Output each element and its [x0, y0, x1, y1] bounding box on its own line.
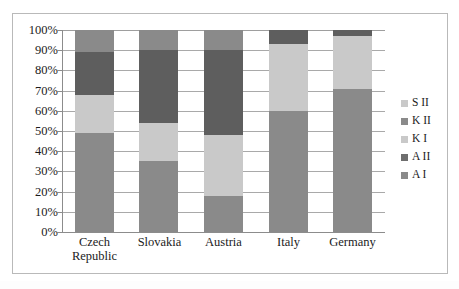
bar-segment — [139, 30, 178, 50]
y-axis-tick — [57, 151, 62, 152]
legend-swatch-icon — [401, 100, 408, 107]
chart-legend: S IIK IIK IA IIA I — [401, 94, 449, 184]
y-axis-tick — [57, 131, 62, 132]
scan-edge — [0, 281, 459, 289]
bar-segment — [139, 123, 178, 161]
y-axis-tick — [57, 50, 62, 51]
legend-label: K I — [412, 133, 427, 145]
bar-segment — [75, 30, 114, 52]
legend-label: S II — [412, 97, 429, 109]
bar-stack — [139, 30, 178, 232]
bar-segment — [75, 95, 114, 133]
y-axis-tick-label: 40% — [35, 145, 58, 158]
y-axis-tick — [57, 91, 62, 92]
x-axis-line — [62, 232, 385, 233]
stacked-bar-chart: 0%10%20%30%40%50%60%70%80%90%100% CzechR… — [0, 0, 459, 289]
bar-segment — [139, 161, 178, 232]
y-axis-tick-label: 90% — [35, 44, 58, 57]
legend-item: A I — [401, 166, 449, 184]
y-axis-tick — [57, 212, 62, 213]
bar-group — [75, 30, 114, 232]
x-axis-labels: CzechRepublicSlovakiaAustriaItalyGermany — [62, 236, 385, 272]
bar-segment — [269, 30, 308, 44]
legend-item: S II — [401, 94, 449, 112]
y-axis-tick — [57, 171, 62, 172]
y-axis-tick — [57, 111, 62, 112]
bar-segment — [139, 50, 178, 123]
bar-stack — [333, 30, 372, 232]
x-axis-category-label: Austria — [191, 236, 256, 250]
x-axis-category-label: CzechRepublic — [62, 236, 127, 263]
legend-item: K I — [401, 130, 449, 148]
legend-swatch-icon — [401, 172, 408, 179]
bar-segment — [204, 135, 243, 196]
x-axis-category-label: Italy — [256, 236, 321, 250]
y-axis-tick-label: 20% — [35, 186, 58, 199]
bar-group — [204, 30, 243, 232]
bar-segment — [333, 30, 372, 36]
legend-item: A II — [401, 148, 449, 166]
x-axis-category-label: Slovakia — [127, 236, 192, 250]
legend-swatch-icon — [401, 136, 408, 143]
bar-segment — [204, 50, 243, 135]
legend-label: A II — [412, 151, 430, 163]
legend-label: A I — [412, 169, 426, 181]
y-axis-tick — [57, 70, 62, 71]
legend-label: K II — [412, 115, 431, 127]
y-axis-tick-label: 50% — [35, 125, 58, 138]
x-axis-category-line: Austria — [191, 236, 256, 250]
y-axis-line — [62, 30, 63, 232]
bar-stack — [204, 30, 243, 232]
y-axis-tick-label: 70% — [35, 85, 58, 98]
x-axis-category-line: Republic — [62, 250, 127, 264]
bar-segment — [204, 196, 243, 232]
bar-segment — [204, 30, 243, 50]
bar-group — [269, 30, 308, 232]
y-axis-tick-label: 0% — [41, 226, 58, 239]
bar-segment — [75, 52, 114, 94]
bar-segment — [333, 89, 372, 232]
x-axis-category-line: Slovakia — [127, 236, 192, 250]
y-axis-labels: 0%10%20%30%40%50%60%70%80%90%100% — [14, 30, 58, 232]
bar-group — [139, 30, 178, 232]
bar-segment — [333, 36, 372, 89]
legend-item: K II — [401, 112, 449, 130]
y-axis-tick — [57, 30, 62, 31]
x-axis-category-line: Germany — [320, 236, 385, 250]
bar-group — [333, 30, 372, 232]
bar-segment — [75, 133, 114, 232]
x-axis-category-line: Italy — [256, 236, 321, 250]
bar-segment — [269, 111, 308, 232]
legend-swatch-icon — [401, 118, 408, 125]
y-axis-tick-label: 100% — [29, 24, 58, 37]
x-axis-category-label: Germany — [320, 236, 385, 250]
bar-stack — [269, 30, 308, 232]
y-axis-tick — [57, 192, 62, 193]
bar-segment — [269, 44, 308, 111]
y-axis-tick-label: 30% — [35, 165, 58, 178]
y-axis-tick-label: 60% — [35, 105, 58, 118]
y-axis-tick — [57, 232, 62, 233]
y-axis-tick-label: 80% — [35, 64, 58, 77]
y-axis-tick-label: 10% — [35, 206, 58, 219]
x-axis-category-line: Czech — [62, 236, 127, 250]
legend-swatch-icon — [401, 154, 408, 161]
plot-area — [62, 30, 385, 232]
bar-stack — [75, 30, 114, 232]
plot-inner — [62, 30, 385, 232]
